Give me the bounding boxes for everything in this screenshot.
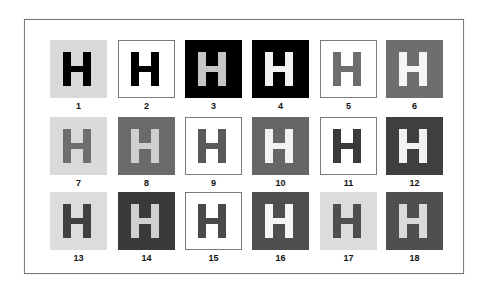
- letter-h-stem-r: [353, 204, 361, 238]
- tile-number-label: 18: [386, 253, 443, 263]
- letter-h-bar: [138, 66, 152, 72]
- letter-h-glyph: [333, 204, 361, 238]
- letter-h-glyph: [198, 129, 226, 163]
- tile-16: [252, 192, 309, 250]
- letter-h-stem-r: [218, 52, 226, 86]
- letter-h-glyph: [63, 204, 91, 238]
- letter-h-stem-r: [419, 52, 427, 86]
- tile-4: [252, 40, 309, 98]
- tile-3: [185, 40, 242, 98]
- tile-10: [252, 117, 309, 175]
- letter-h-stem-r: [353, 52, 361, 86]
- tile-7: [50, 117, 107, 175]
- letter-h-bar: [138, 143, 152, 149]
- tile-number-label: 6: [386, 101, 443, 111]
- tile-number-label: 8: [118, 178, 175, 188]
- letter-h-stem-r: [285, 52, 293, 86]
- letter-h-stem-r: [83, 204, 91, 238]
- letter-h-glyph: [399, 129, 427, 163]
- tile-number-label: 12: [386, 178, 443, 188]
- tile-18: [386, 192, 443, 250]
- tile-number-label: 17: [320, 253, 377, 263]
- tile-6: [386, 40, 443, 98]
- letter-h-glyph: [198, 204, 226, 238]
- tile-13: [50, 192, 107, 250]
- letter-h-bar: [340, 143, 354, 149]
- tile-number-label: 14: [118, 253, 175, 263]
- tile-number-label: 13: [50, 253, 107, 263]
- tile-number-label: 2: [118, 101, 175, 111]
- tile-number-label: 5: [320, 101, 377, 111]
- tile-number-label: 16: [252, 253, 309, 263]
- letter-h-bar: [340, 218, 354, 224]
- letter-h-stem-r: [151, 52, 159, 86]
- letter-h-bar: [272, 143, 286, 149]
- tile-number-label: 9: [185, 178, 242, 188]
- letter-h-bar: [138, 218, 152, 224]
- tile-number-label: 1: [50, 101, 107, 111]
- letter-h-stem-r: [151, 129, 159, 163]
- letter-h-bar: [205, 218, 219, 224]
- letter-h-stem-r: [419, 204, 427, 238]
- tile-11: [320, 117, 377, 175]
- tile-number-label: 3: [185, 101, 242, 111]
- tile-number-label: 7: [50, 178, 107, 188]
- letter-h-glyph: [265, 52, 293, 86]
- tile-14: [118, 192, 175, 250]
- letter-h-bar: [70, 143, 84, 149]
- letter-h-bar: [205, 66, 219, 72]
- tile-15: [185, 192, 242, 250]
- letter-h-bar: [272, 66, 286, 72]
- letter-h-bar: [406, 143, 420, 149]
- letter-h-glyph: [333, 52, 361, 86]
- tile-17: [320, 192, 377, 250]
- letter-h-glyph: [399, 52, 427, 86]
- letter-h-bar: [70, 66, 84, 72]
- letter-h-bar: [340, 66, 354, 72]
- letter-h-bar: [406, 218, 420, 224]
- tile-12: [386, 117, 443, 175]
- tile-number-label: 11: [320, 178, 377, 188]
- letter-h-stem-r: [151, 204, 159, 238]
- letter-h-stem-r: [218, 129, 226, 163]
- letter-h-stem-r: [83, 129, 91, 163]
- tile-number-label: 15: [185, 253, 242, 263]
- tile-8: [118, 117, 175, 175]
- letter-h-bar: [70, 218, 84, 224]
- letter-h-stem-r: [83, 52, 91, 86]
- tile-9: [185, 117, 242, 175]
- tile-1: [50, 40, 107, 98]
- letter-h-glyph: [131, 204, 159, 238]
- letter-h-bar: [205, 143, 219, 149]
- letter-h-bar: [272, 218, 286, 224]
- letter-h-stem-r: [218, 204, 226, 238]
- letter-h-stem-r: [419, 129, 427, 163]
- tile-number-label: 10: [252, 178, 309, 188]
- letter-h-glyph: [399, 204, 427, 238]
- tile-2: [118, 40, 175, 98]
- letter-h-stem-r: [353, 129, 361, 163]
- letter-h-glyph: [265, 204, 293, 238]
- letter-h-glyph: [63, 129, 91, 163]
- letter-h-stem-r: [285, 204, 293, 238]
- tile-number-label: 4: [252, 101, 309, 111]
- tile-5: [320, 40, 377, 98]
- letter-h-bar: [406, 66, 420, 72]
- letter-h-glyph: [63, 52, 91, 86]
- letter-h-glyph: [131, 129, 159, 163]
- letter-h-glyph: [131, 52, 159, 86]
- letter-h-glyph: [198, 52, 226, 86]
- letter-h-glyph: [265, 129, 293, 163]
- letter-h-stem-r: [285, 129, 293, 163]
- letter-h-glyph: [333, 129, 361, 163]
